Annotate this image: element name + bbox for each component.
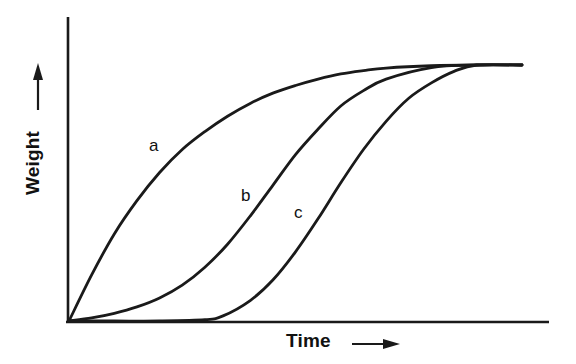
right-arrow-icon [352,339,400,349]
y-axis-label-group: Weight [10,60,56,260]
curve-b-path [69,65,522,321]
curve-label-a: a [149,137,158,154]
y-axis-label: Weight [22,93,44,233]
curve-a-path [69,65,522,321]
curve-label-c: c [294,204,303,221]
plot-canvas [0,0,576,364]
curve-c-path [69,65,522,322]
growth-curves-figure: Weight Time a b c [0,0,576,364]
curve-label-b: b [241,187,250,204]
x-axis-label: Time [286,330,331,352]
